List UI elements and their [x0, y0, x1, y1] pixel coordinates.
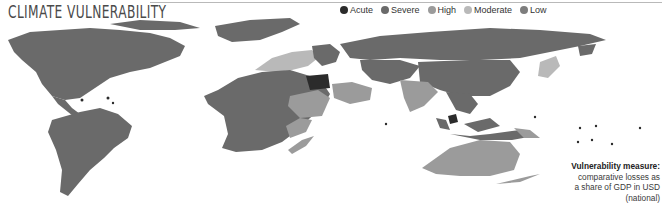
note-line: comparative losses as: [578, 172, 660, 182]
legend-item-severe: Severe: [381, 5, 420, 15]
region-new-zealand: [496, 174, 540, 184]
legend-label: Acute: [350, 5, 373, 15]
region-russia: [340, 28, 606, 60]
island-marker: [107, 97, 110, 100]
legend-label: High: [438, 5, 457, 15]
legend-label: Moderate: [474, 5, 512, 15]
region-eastern-europe: [312, 44, 340, 66]
island-marker: [534, 116, 536, 118]
island-marker: [611, 143, 613, 145]
island-marker: [385, 123, 387, 125]
island-marker: [577, 141, 579, 143]
note-heading: Vulnerability measure:: [571, 161, 660, 171]
legend-dot-icon: [520, 6, 528, 14]
measure-note: Vulnerability measure: comparative losse…: [571, 161, 660, 203]
legend-label: Severe: [391, 5, 420, 15]
world-map: [0, 16, 662, 209]
legend: Acute Severe High Moderate Low: [340, 5, 547, 15]
header-rule: [150, 2, 662, 3]
legend-dot-icon: [381, 6, 389, 14]
island-marker: [591, 139, 593, 141]
island-marker: [639, 127, 641, 129]
legend-dot-icon: [340, 6, 348, 14]
note-line: a share of GDP in USD: [574, 182, 660, 192]
region-kamchatka: [578, 44, 596, 56]
legend-item-high: High: [428, 5, 457, 15]
region-greenland: [215, 18, 300, 42]
region-central-asia: [360, 60, 420, 84]
island-marker: [595, 125, 597, 127]
region-egypt: [306, 74, 330, 90]
region-north-america: [8, 28, 185, 100]
region-south-america: [48, 108, 132, 196]
legend-dot-icon: [428, 6, 436, 14]
region-japan: [538, 56, 560, 78]
region-western-europe: [255, 50, 318, 72]
region-australia: [422, 140, 520, 176]
note-line: (national): [625, 193, 660, 203]
legend-item-acute: Acute: [340, 5, 373, 15]
island-marker: [579, 127, 581, 129]
region-saudi-arabia: [332, 82, 372, 104]
island-marker: [81, 99, 84, 102]
region-madagascar: [288, 136, 314, 154]
legend-item-moderate: Moderate: [464, 5, 512, 15]
island-marker: [112, 102, 114, 104]
region-borneo: [464, 118, 500, 132]
legend-label: Low: [530, 5, 547, 15]
legend-item-low: Low: [520, 5, 547, 15]
legend-dot-icon: [464, 6, 472, 14]
region-malaysia: [436, 118, 450, 130]
region-cambodia: [448, 114, 458, 124]
region-arctic-islands: [110, 20, 200, 30]
